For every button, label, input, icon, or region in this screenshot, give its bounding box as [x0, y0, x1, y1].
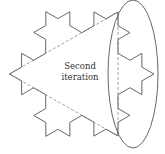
iteration-label-line-2: iteration [50, 72, 110, 83]
iteration-label: Second iteration [50, 61, 110, 83]
highlight-ellipse [108, 0, 158, 148]
iteration-label-line-1: Second [50, 61, 110, 72]
